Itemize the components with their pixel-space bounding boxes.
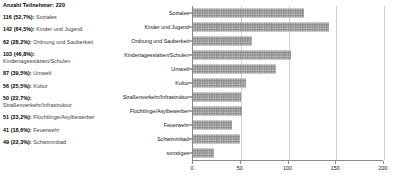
bar bbox=[193, 51, 291, 60]
legend-item-count: 41 (18,6%): bbox=[3, 127, 32, 133]
category-label: sonstiges bbox=[167, 150, 189, 156]
gridline bbox=[384, 6, 385, 160]
x-tick bbox=[335, 161, 336, 164]
category-label: Kindertagesstätten/Schulen bbox=[124, 52, 189, 58]
legend-item: 41 (18,6%): Feuerwehr bbox=[3, 127, 107, 134]
legend-item: 142 (64,5%): Kinder und Jugend bbox=[3, 26, 107, 33]
legend-item: 51 (23,2%): Flüchtlinge/Asylbewerber bbox=[3, 114, 107, 121]
legend-item-count: 56 (25,5%): bbox=[3, 83, 32, 89]
bar bbox=[193, 135, 240, 144]
bar-chart: SozialesKinder und JugendOrdnung und Sau… bbox=[108, 6, 392, 178]
legend-list: 116 (52,7%): Soziales142 (64,5%): Kinder… bbox=[3, 14, 107, 146]
x-tick bbox=[240, 161, 241, 164]
category-label: Kinder und Jugend bbox=[145, 24, 189, 30]
legend-item-label: Kinder und Jugend bbox=[35, 26, 83, 32]
x-tick-label: 150 bbox=[331, 165, 340, 172]
legend-item-label: Feuerwehr bbox=[32, 127, 60, 133]
legend-item: 49 (22,3%): Schwimmbad bbox=[3, 139, 107, 146]
legend-item-label: Straßenverkehr/Infrastruktur bbox=[3, 102, 107, 109]
category-label: Umwelt bbox=[171, 66, 189, 72]
legend-item-count: 142 (64,5%): bbox=[3, 26, 35, 32]
bar bbox=[193, 37, 252, 46]
x-tick-label: 100 bbox=[283, 165, 292, 172]
legend-item-label: Flüchtlinge/Asylbewerber bbox=[32, 114, 95, 120]
bar bbox=[193, 121, 232, 130]
legend-item: 103 (46,8%):Kindertagesstätten/Schulen bbox=[3, 51, 107, 65]
category-label: Ordnung und Sauberkeit bbox=[131, 38, 189, 44]
legend-item-count: 116 (52,7%): bbox=[3, 14, 34, 20]
legend-item: 87 (39,5%): Umwelt bbox=[3, 70, 107, 77]
bar bbox=[193, 65, 276, 74]
bar bbox=[193, 149, 214, 158]
legend-item-count: 62 (28,2%): bbox=[3, 39, 32, 45]
bar bbox=[193, 79, 246, 88]
legend-item-label: Umwelt bbox=[32, 70, 52, 76]
x-tick-label: 50 bbox=[237, 165, 243, 172]
bar bbox=[193, 107, 242, 116]
legend-item-count: 50 (22,7%): bbox=[3, 95, 32, 101]
legend-item-count: 87 (39,5%): bbox=[3, 70, 32, 76]
x-tick bbox=[192, 161, 193, 164]
legend-item-count: 51 (23,2%): bbox=[3, 114, 32, 120]
legend-item-label: Kindertagesstätten/Schulen bbox=[3, 58, 107, 65]
x-tick-label: 200 bbox=[379, 165, 388, 172]
plot-area bbox=[192, 6, 383, 160]
participant-legend: Anzahl Teilnehmer: 220 116 (52,7%): Sozi… bbox=[3, 2, 107, 183]
screenshot-root: Anzahl Teilnehmer: 220 116 (52,7%): Sozi… bbox=[0, 0, 394, 185]
category-label: Straßenverkehr/Infrastruktur bbox=[123, 94, 189, 100]
category-label: Kultur bbox=[175, 80, 189, 86]
legend-item-label: Ordnung und Sauberkeit bbox=[32, 39, 93, 45]
legend-item: 50 (22,7%):Straßenverkehr/Infrastruktur bbox=[3, 95, 107, 109]
legend-item: 62 (28,2%): Ordnung und Sauberkeit bbox=[3, 39, 107, 46]
x-tick bbox=[383, 161, 384, 164]
category-label: Flüchtlinge/Asylbewerber bbox=[130, 108, 189, 114]
plot-outer: SozialesKinder und JugendOrdnung und Sau… bbox=[108, 6, 392, 166]
bar bbox=[193, 23, 329, 32]
legend-item-label: Soziales bbox=[34, 14, 56, 20]
bar bbox=[193, 9, 304, 18]
legend-item-label: Schwimmbad bbox=[32, 139, 66, 145]
x-tick bbox=[288, 161, 289, 164]
category-axis: SozialesKinder und JugendOrdnung und Sau… bbox=[108, 6, 192, 160]
category-label: Feuerwehr bbox=[164, 122, 189, 128]
x-tick-label: 0 bbox=[191, 165, 194, 172]
category-label: Schwimmbad bbox=[157, 136, 189, 142]
legend-item-count: 49 (22,3%): bbox=[3, 139, 32, 145]
legend-item: 56 (25,5%): Kultur bbox=[3, 83, 107, 90]
gridline bbox=[336, 6, 337, 160]
legend-item-label: Kultur bbox=[32, 83, 48, 89]
category-label: Soziales bbox=[169, 10, 189, 16]
legend-item: 116 (52,7%): Soziales bbox=[3, 14, 107, 21]
legend-title: Anzahl Teilnehmer: 220 bbox=[3, 2, 107, 9]
bar bbox=[193, 93, 241, 102]
legend-item-count: 103 (46,8%): bbox=[3, 51, 35, 57]
